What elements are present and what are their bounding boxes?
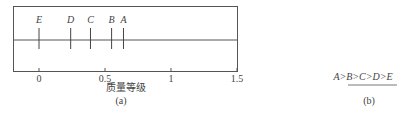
x-tick-label: 1: [169, 73, 174, 84]
marker-label-C: C: [87, 14, 94, 25]
caption-b: (b): [363, 95, 375, 107]
x-tick-label: 1.5: [231, 73, 244, 84]
marker-label-D: D: [66, 14, 75, 25]
quality-level-chart: 00.511.5 EDCBA 质量等级 (a) A>B>C>D>E (b): [0, 0, 407, 113]
marker-label-A: A: [119, 14, 127, 25]
marker-label-B: B: [109, 14, 115, 25]
x-axis-label: 质量等级: [106, 81, 146, 93]
marker-label-E: E: [35, 14, 42, 25]
x-tick-label: 0: [37, 73, 42, 84]
ordering-text: A>B>C>D>E: [332, 71, 392, 82]
caption-a: (a): [115, 95, 126, 107]
